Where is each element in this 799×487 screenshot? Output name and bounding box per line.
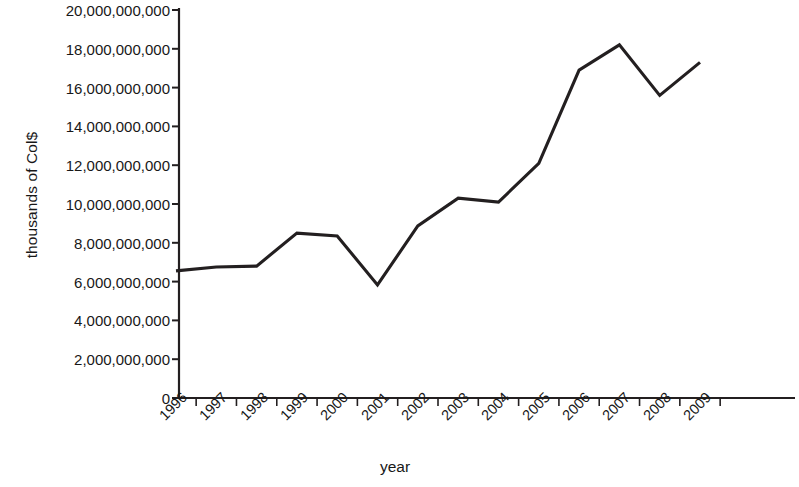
line-chart: thousands of Col$ 02,000,000,0004,000,00…	[0, 0, 799, 487]
axis-lines	[176, 8, 795, 398]
data-series-line	[176, 45, 700, 285]
x-axis-title: year	[380, 458, 410, 476]
